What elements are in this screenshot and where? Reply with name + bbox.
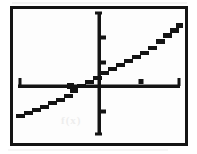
graph-svg	[0, 0, 197, 154]
faint-scan-text-artifact: f(x)	[61, 114, 82, 126]
x-intercept-marker	[67, 83, 74, 89]
screenshot-root: f(x)	[0, 0, 197, 154]
plot-surface	[0, 0, 197, 154]
